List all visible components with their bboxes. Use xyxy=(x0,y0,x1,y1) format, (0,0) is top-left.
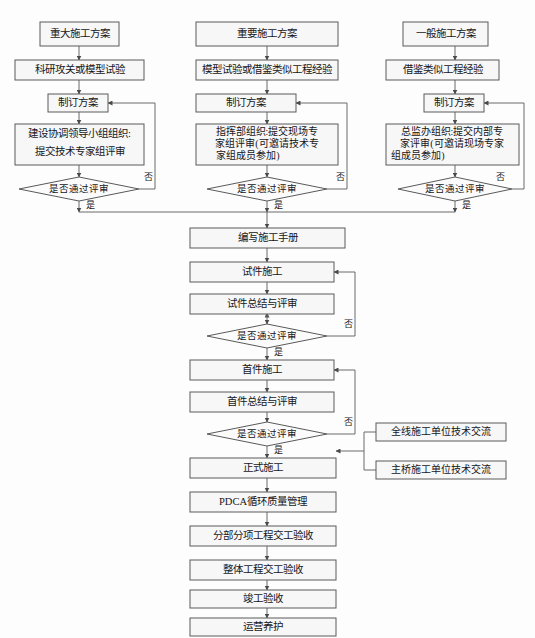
node-t5-label: 首件施工 xyxy=(242,363,282,375)
edge-label-n5-no: 否 xyxy=(144,172,153,182)
node-m2[interactable]: 模型试验或借鉴类似工程经验 xyxy=(196,60,338,80)
node-m1-label: 重要施工方案 xyxy=(237,27,298,39)
edge-label-g5-no: 否 xyxy=(496,172,505,182)
node-n3[interactable]: 制订方案 xyxy=(48,94,108,112)
flowchart-svg: 重大施工方案 科研攻关或模型试验 制订方案 建设协调领导小组组织: 提交技术专家… xyxy=(0,0,535,638)
node-s2[interactable]: 主桥施工单位技术交流 xyxy=(376,461,506,479)
node-m2-label: 模型试验或借鉴类似工程经验 xyxy=(202,63,333,75)
edge-label-t7-yes: 是 xyxy=(274,445,283,455)
node-t2[interactable]: 试件施工 xyxy=(190,262,334,282)
node-n4[interactable]: 建设协调领导小组组织: 提交技术专家组评审 xyxy=(15,124,144,165)
node-n5-label: 是否通过评审 xyxy=(49,183,109,194)
node-n1-label: 重大施工方案 xyxy=(50,27,111,39)
node-s1-label: 全线施工单位技术交流 xyxy=(391,425,491,437)
node-t3-label: 试件总结与评审 xyxy=(227,297,297,309)
edge-label-t4-yes: 是 xyxy=(274,347,283,357)
node-t11[interactable]: 整体工程交工验收 xyxy=(190,560,336,580)
node-t12[interactable]: 竣工验收 xyxy=(190,590,336,608)
node-g4-label-line1: 总监办组织:提交内部专 xyxy=(401,125,504,137)
node-n4-label-line1: 建设协调领导小组组织: xyxy=(28,127,131,139)
node-g1[interactable]: 一般施工方案 xyxy=(403,22,488,46)
edge-label-g5-yes: 是 xyxy=(462,200,471,210)
node-t6-label: 首件总结与评审 xyxy=(227,395,297,407)
node-m3-label: 制订方案 xyxy=(226,96,267,108)
node-t4[interactable]: 是否通过评审 xyxy=(207,324,327,348)
node-n2-label: 科研攻关或模型试验 xyxy=(35,63,126,75)
flowchart-canvas: 重大施工方案 科研攻关或模型试验 制订方案 建设协调领导小组组织: 提交技术专家… xyxy=(0,0,535,638)
node-t9-label: PDCA循环质量管理 xyxy=(219,495,308,507)
node-t1-label: 编写施工手册 xyxy=(238,231,299,243)
node-t10[interactable]: 分部分项工程交工验收 xyxy=(190,526,336,546)
node-m4[interactable]: 指挥部组织:提交现场专 家组评审(可邀请技术专 家组成员参加) xyxy=(196,124,338,165)
node-t1[interactable]: 编写施工手册 xyxy=(190,228,345,248)
node-m4-label-line1: 指挥部组织:提交现场专 xyxy=(216,125,319,137)
edge-label-m5-yes: 是 xyxy=(274,200,283,210)
node-s1[interactable]: 全线施工单位技术交流 xyxy=(376,423,506,441)
node-g5-label: 是否通过评审 xyxy=(425,183,485,194)
node-m5[interactable]: 是否通过评审 xyxy=(207,177,327,201)
node-t7-label: 是否通过评审 xyxy=(237,428,297,439)
node-m4-label-line2: 家组评审(可邀请技术专 xyxy=(215,137,318,150)
node-t4-label: 是否通过评审 xyxy=(237,330,297,341)
node-g3-label: 制订方案 xyxy=(434,96,475,108)
node-g4[interactable]: 总监办组织:提交内部专 家评审(可邀请现场专家 组成员参加) xyxy=(386,124,519,165)
node-g4-label-line2: 家评审(可邀请现场专家 xyxy=(400,137,503,150)
node-t10-label: 分部分项工程交工验收 xyxy=(213,529,314,541)
node-g4-label-line3: 组成员参加) xyxy=(391,149,444,162)
node-t13-label: 运营养护 xyxy=(243,620,283,632)
node-m1[interactable]: 重要施工方案 xyxy=(196,22,338,46)
node-s2-label: 主桥施工单位技术交流 xyxy=(391,463,491,475)
node-m4-label-line3: 家组成员参加) xyxy=(216,149,279,162)
edge-label-t4-no: 否 xyxy=(344,319,353,329)
connectors-side-branch xyxy=(336,432,376,470)
node-n4-label-line2: 提交技术专家组评审 xyxy=(35,145,125,157)
node-n5[interactable]: 是否通过评审 xyxy=(19,177,139,201)
node-t7[interactable]: 是否通过评审 xyxy=(207,422,327,446)
node-n1[interactable]: 重大施工方案 xyxy=(40,22,119,46)
edge-label-n5-yes: 是 xyxy=(86,200,95,210)
node-t2-label: 试件施工 xyxy=(242,265,282,277)
node-g2[interactable]: 借鉴类似工程经验 xyxy=(386,60,499,80)
node-n3-label: 制订方案 xyxy=(58,96,99,108)
node-t11-label: 整体工程交工验收 xyxy=(223,563,304,575)
node-t8-label: 正式施工 xyxy=(243,461,283,473)
node-n2[interactable]: 科研攻关或模型试验 xyxy=(15,60,144,80)
node-g2-label: 借鉴类似工程经验 xyxy=(403,63,484,75)
node-t3[interactable]: 试件总结与评审 xyxy=(190,294,334,314)
node-m3[interactable]: 制订方案 xyxy=(196,94,296,112)
node-t8[interactable]: 正式施工 xyxy=(190,458,336,478)
node-t6[interactable]: 首件总结与评审 xyxy=(190,392,334,412)
node-t5[interactable]: 首件施工 xyxy=(190,360,334,380)
node-t12-label: 竣工验收 xyxy=(243,592,284,604)
node-t13[interactable]: 运营养护 xyxy=(190,618,336,636)
edge-label-m5-no: 否 xyxy=(336,172,345,182)
node-m5-label: 是否通过评审 xyxy=(237,183,297,194)
node-g1-label: 一般施工方案 xyxy=(416,27,477,39)
node-g3[interactable]: 制订方案 xyxy=(424,94,484,112)
edge-label-t7-no: 否 xyxy=(344,417,353,427)
node-t9[interactable]: PDCA循环质量管理 xyxy=(190,492,336,512)
